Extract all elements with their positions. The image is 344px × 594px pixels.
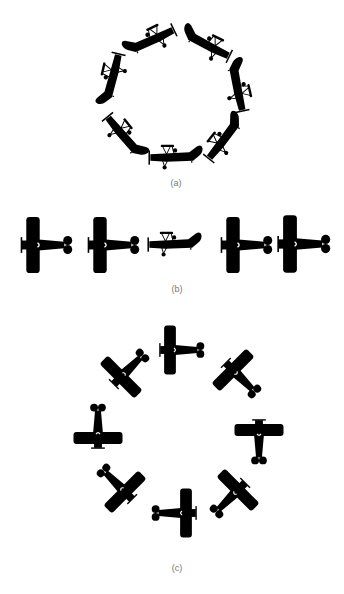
top-plane-b5 — [277, 215, 330, 273]
top-plane-c4 — [196, 465, 263, 532]
panel-c-ring — [74, 326, 284, 538]
figure-canvas — [0, 0, 344, 594]
side-plane-a3 — [94, 50, 130, 108]
top-plane-c3 — [235, 419, 284, 464]
top-plane-c5 — [152, 489, 197, 538]
caption-c: (c) — [172, 563, 183, 573]
side-plane-a7 — [198, 109, 251, 167]
top-plane-c6 — [83, 450, 150, 517]
top-plane-c8 — [96, 335, 163, 402]
top-plane-c7 — [74, 404, 123, 449]
top-plane-b1 — [21, 217, 73, 273]
top-plane-c1 — [159, 326, 204, 375]
side-plane-a6 — [219, 56, 255, 114]
top-plane-b4 — [221, 217, 273, 273]
top-plane-c2 — [208, 345, 275, 412]
panel-a-ring — [94, 18, 255, 170]
top-plane-b2 — [88, 217, 140, 273]
side-plane-a5 — [176, 21, 236, 67]
caption-a: (a) — [171, 178, 182, 188]
caption-b: (b) — [172, 284, 183, 294]
side-plane-a1 — [148, 145, 202, 170]
panel-b-row — [21, 215, 331, 273]
side-plane-a2 — [98, 108, 151, 166]
side-plane-a4 — [120, 18, 180, 64]
side-plane-b3 — [147, 232, 201, 257]
